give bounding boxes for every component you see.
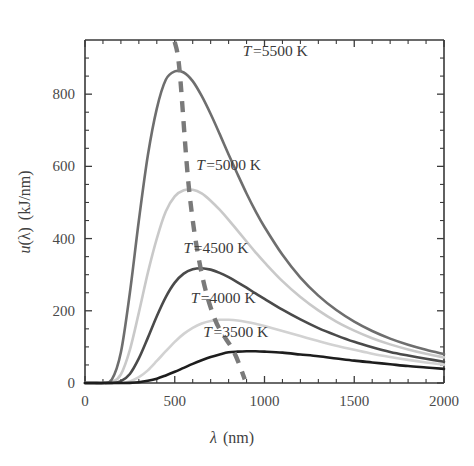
temperature-symbol: T [243, 42, 253, 59]
y-tick-label: 0 [68, 375, 76, 391]
curve-label-text: T=5500 K [243, 42, 309, 59]
temperature-value: =4000 K [201, 289, 257, 306]
temperature-value: =5000 K [206, 156, 262, 173]
y-tick-label: 600 [53, 158, 76, 174]
temperature-value: =5500 K [253, 42, 309, 59]
temperature-symbol: T [196, 156, 206, 173]
x-tick-label: 2000 [429, 393, 459, 409]
x-tick-label: 1000 [250, 393, 280, 409]
y-axis-title-unit: (kJ/nm) [16, 170, 34, 220]
curve-label-text: T=3500 K [203, 323, 269, 340]
curve-label-5000k: T=5000 K [196, 156, 262, 173]
y-tick-label: 800 [53, 86, 76, 102]
y-axis-title: u(λ)(kJ/nm) [16, 170, 34, 253]
curve-label-4500k: T=4500 K [184, 239, 250, 256]
temperature-symbol: T [203, 323, 213, 340]
curve-label-5500k: T=5500 K [243, 42, 309, 59]
curve-label-text: T=5000 K [196, 156, 262, 173]
y-tick-label: 200 [53, 303, 76, 319]
y-axis-title-symbol: u [16, 246, 33, 254]
curve-label-3500k: T=3500 K [203, 323, 269, 340]
curve-label-4000k: T=4000 K [191, 289, 257, 306]
x-axis-title-text: λ(nm) [209, 429, 254, 447]
y-axis-title-text: u(λ)(kJ/nm) [16, 170, 34, 253]
y-axis-title-argument: (λ) [16, 227, 34, 245]
blackbody-spectrum-figure: 05001000150020000200400600800 T=5500 KT=… [0, 0, 474, 466]
temperature-symbol: T [184, 239, 194, 256]
temperature-value: =3500 K [213, 323, 269, 340]
temperature-value: =4500 K [194, 239, 250, 256]
y-tick-label: 400 [53, 231, 76, 247]
chart-canvas: 05001000150020000200400600800 T=5500 KT=… [0, 0, 474, 466]
x-axis-title-symbol: λ [209, 429, 217, 446]
curve-label-text: T=4500 K [184, 239, 250, 256]
x-axis-title: λ(nm) [209, 429, 254, 447]
x-tick-label: 1500 [339, 393, 369, 409]
curve-label-text: T=4000 K [191, 289, 257, 306]
x-tick-label: 500 [164, 393, 187, 409]
temperature-symbol: T [191, 289, 201, 306]
x-tick-label: 0 [81, 393, 89, 409]
x-axis-title-unit: (nm) [223, 429, 254, 447]
